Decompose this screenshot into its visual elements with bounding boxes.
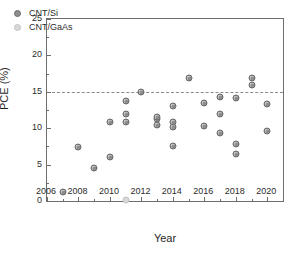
x-tick-major: [141, 197, 142, 202]
x-tick-label: 2014: [162, 186, 182, 196]
data-point: [264, 101, 271, 108]
y-tick-label: 20: [32, 49, 42, 59]
data-point: [154, 114, 161, 121]
x-tick-minor: [283, 199, 284, 202]
y-tick-label: 10: [32, 122, 42, 132]
x-tick-major: [173, 197, 174, 202]
y-tick-label: 5: [37, 159, 42, 169]
x-tick-label: 2020: [256, 186, 276, 196]
y-tick-minor: [46, 37, 49, 38]
data-point: [138, 88, 145, 95]
plot-area: [46, 18, 284, 202]
y-tick-minor: [46, 110, 49, 111]
data-point: [106, 119, 113, 126]
data-point: [122, 97, 129, 104]
data-point: [264, 128, 271, 135]
data-point: [169, 143, 176, 150]
reference-line-15: [47, 92, 283, 93]
x-tick-label: 2008: [67, 186, 87, 196]
y-tick-minor: [46, 146, 49, 147]
data-point: [169, 103, 176, 110]
data-point: [91, 165, 98, 172]
x-tick-minor: [63, 199, 64, 202]
data-point: [217, 130, 224, 137]
x-tick-major: [236, 197, 237, 202]
y-tick-major: [46, 128, 51, 129]
data-point: [106, 154, 113, 161]
data-point: [248, 81, 255, 88]
data-point: [185, 74, 192, 81]
data-point: [75, 144, 82, 151]
x-tick-label: 2018: [225, 186, 245, 196]
x-tick-major: [78, 197, 79, 202]
data-point: [232, 151, 239, 158]
y-tick-major: [46, 55, 51, 56]
x-tick-minor: [220, 199, 221, 202]
data-point: [122, 196, 129, 203]
x-tick-major: [110, 197, 111, 202]
data-point: [232, 141, 239, 148]
y-tick-label: 25: [32, 13, 42, 23]
x-tick-label: 2010: [99, 186, 119, 196]
data-point: [122, 111, 129, 118]
y-tick-label: 15: [32, 86, 42, 96]
y-axis-label: PCE (%): [0, 67, 10, 110]
data-point: [122, 119, 129, 126]
y-tick-major: [46, 19, 51, 20]
x-tick-major: [204, 197, 205, 202]
data-point: [59, 188, 66, 195]
y-tick-major: [46, 165, 51, 166]
y-tick-minor: [46, 183, 49, 184]
data-point: [201, 123, 208, 130]
data-point: [248, 74, 255, 81]
x-tick-major: [267, 197, 268, 202]
x-tick-minor: [94, 199, 95, 202]
y-tick-minor: [46, 74, 49, 75]
data-point: [232, 95, 239, 102]
legend-marker-icon-cnt-gaas: [14, 24, 21, 31]
x-tick-minor: [157, 199, 158, 202]
x-tick-minor: [252, 199, 253, 202]
x-tick-label: 2016: [193, 186, 213, 196]
data-point: [217, 93, 224, 100]
y-tick-label: 0: [37, 195, 42, 205]
y-tick-major: [46, 92, 51, 93]
data-point: [201, 100, 208, 107]
x-tick-minor: [189, 199, 190, 202]
y-tick-major: [46, 201, 51, 202]
x-axis-label: Year: [46, 232, 284, 244]
data-point: [217, 111, 224, 118]
scatter-chart-figure: CNT/Si CNT/GaAs 200620082010201220142016…: [0, 0, 307, 262]
legend-marker-icon-cnt-si: [14, 10, 21, 17]
data-point: [169, 119, 176, 126]
x-tick-label: 2012: [130, 186, 150, 196]
